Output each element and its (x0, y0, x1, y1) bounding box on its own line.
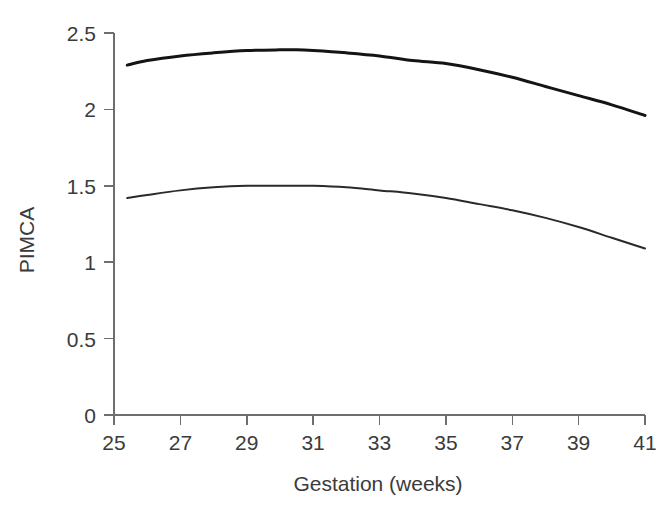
y-tick-label-1-5: 1.5 (67, 175, 96, 198)
y-tick-label-0: 0 (84, 404, 96, 427)
x-tick-label-31: 31 (301, 431, 324, 454)
y-axis-title: PIMCA (15, 207, 38, 274)
y-tick-label-1: 1 (84, 251, 96, 274)
x-axis-title: Gestation (weeks) (293, 472, 462, 495)
x-axis-tick-labels: 25 27 29 31 33 35 37 39 41 (102, 431, 656, 454)
chart-page: 0 0.5 1 1.5 2 2.5 25 27 29 31 33 35 (0, 0, 670, 516)
x-tick-label-35: 35 (434, 431, 457, 454)
x-tick-label-37: 37 (501, 431, 524, 454)
pimca-gestation-line-chart: 0 0.5 1 1.5 2 2.5 25 27 29 31 33 35 (0, 0, 670, 516)
y-tick-label-2: 2 (84, 98, 96, 121)
x-tick-label-25: 25 (102, 431, 125, 454)
x-tick-label-39: 39 (567, 431, 590, 454)
x-tick-label-41: 41 (633, 431, 656, 454)
y-tick-label-0-5: 0.5 (67, 328, 96, 351)
x-tick-label-33: 33 (368, 431, 391, 454)
x-tick-label-27: 27 (169, 431, 192, 454)
y-tick-label-2-5: 2.5 (67, 22, 96, 45)
x-tick-label-29: 29 (235, 431, 258, 454)
